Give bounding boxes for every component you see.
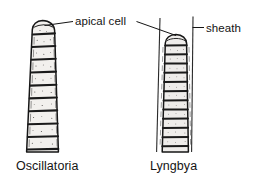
callout-label-sheath: sheath	[206, 22, 241, 35]
taxon-label-lyngbya: Lyngbya	[150, 160, 197, 173]
taxon-label-oscillatoria: Oscillatoria	[16, 160, 78, 173]
oscillatoria-filament	[27, 21, 59, 153]
lyngbya-trichome-outline	[162, 35, 188, 153]
callout-label-apical-cell: apical cell	[75, 15, 126, 28]
